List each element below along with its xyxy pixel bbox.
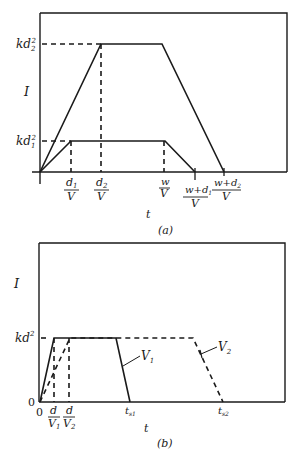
panel-b-ylabel: I (13, 276, 20, 291)
svg-text:V: V (97, 190, 106, 203)
curve-v2 (40, 338, 223, 402)
svg-text:V: V (222, 190, 231, 203)
label-y-zero: 0 (28, 396, 35, 409)
panel-a-caption: (a) (158, 224, 173, 237)
svg-text:w: w (161, 176, 170, 187)
pointer-v2 (201, 347, 217, 354)
label-kd2: kd22 (16, 37, 36, 53)
tick-w-plus-d2-over-V: w+d2 V (212, 177, 241, 203)
label-x-zero: 0 (36, 406, 43, 419)
panel-a: I kd22 kd12 d1 V d2 V w V w+d1 V w+d2 V (16, 13, 287, 237)
tick-d-over-V1: d V1 (48, 404, 60, 431)
curve-d2 (40, 44, 224, 172)
svg-text:w+d1: w+d1 (185, 184, 212, 196)
panel-b-xlabel: t (144, 422, 149, 435)
tick-d2-over-V: d2 V (94, 176, 109, 203)
svg-text:d: d (50, 404, 57, 417)
tick-ts2: ts2 (218, 405, 229, 417)
tick-d-over-V2: d V2 (63, 404, 76, 431)
svg-text:V: V (191, 197, 200, 210)
svg-text:w+d2: w+d2 (214, 177, 241, 189)
svg-text:V: V (67, 190, 76, 203)
panel-a-ylabel: I (23, 84, 30, 99)
svg-text:V2: V2 (63, 417, 76, 431)
curve-d1 (40, 141, 195, 172)
panel-b-caption: (b) (157, 437, 173, 450)
svg-text:V: V (160, 187, 169, 200)
label-kd1: kd12 (16, 134, 36, 150)
figure: I kd22 kd12 d1 V d2 V w V w+d1 V w+d2 V (0, 0, 300, 455)
panel-a-xlabel: t (146, 208, 151, 221)
panel-b: V1 V2 I kd2 0 0 d V1 d V2 ts1 ts2 t (b) (13, 243, 285, 450)
label-v1: V1 (141, 349, 154, 365)
pointer-v1 (123, 356, 140, 366)
svg-text:V1: V1 (48, 417, 60, 431)
panel-b-frame (39, 243, 285, 402)
svg-text:d1: d1 (66, 176, 78, 190)
tick-w-over-V: w V (159, 176, 170, 200)
tick-d1-over-V: d1 V (64, 176, 79, 203)
tick-w-plus-d1-over-V: w+d1 V (183, 184, 212, 210)
svg-text:d: d (66, 404, 73, 417)
label-v2: V2 (218, 340, 232, 356)
label-kd: kd2 (15, 330, 35, 345)
svg-text:d2: d2 (96, 176, 108, 190)
tick-ts1: ts1 (125, 405, 136, 417)
